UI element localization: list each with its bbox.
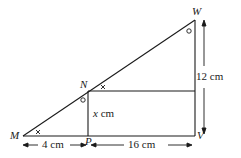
arrowhead-icon [91, 143, 96, 147]
measurement-PV: 16 cm [128, 138, 156, 150]
angle-mark-circle-W [187, 29, 191, 33]
angle-mark-cross-N [101, 85, 105, 89]
similar-triangles-diagram: W N M P V 4 cm 16 cm 12 cm x cm [0, 0, 241, 158]
arrowhead-icon [187, 143, 192, 147]
angle-mark-circle-N [81, 98, 85, 102]
point-label-M: M [9, 129, 20, 141]
point-label-W: W [192, 5, 202, 17]
measurement-MP: 4 cm [42, 138, 64, 150]
measurement-WV: 12 cm [196, 70, 224, 82]
point-label-P: P [84, 135, 92, 147]
arrowhead-icon [23, 143, 28, 147]
angle-mark-cross-M [36, 130, 40, 134]
point-label-N: N [79, 78, 88, 90]
arrowhead-icon [202, 20, 206, 26]
diagram-svg: W N M P V 4 cm 16 cm 12 cm x cm [0, 0, 241, 158]
measurement-NP: x cm [92, 107, 115, 119]
